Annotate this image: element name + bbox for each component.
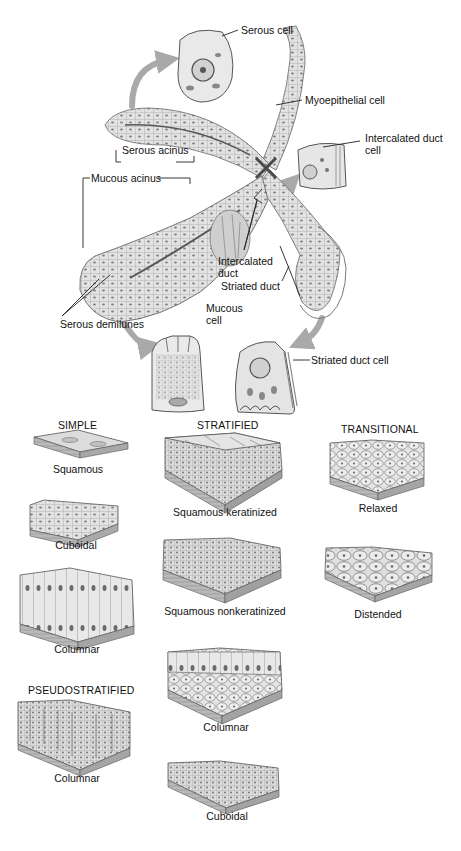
label-mucous-cell-line1: Mucous [206, 302, 243, 314]
heading-simple: SIMPLE [58, 419, 97, 431]
label-striated-duct-cell: Striated duct cell [311, 354, 389, 366]
heading-transitional: TRANSITIONAL [341, 423, 419, 435]
label-intercalated-duct-cell: Intercalated duct cell [365, 132, 443, 156]
label-intercalated-duct: Intercalated duct [218, 255, 273, 279]
stratified-squamous-nonkeratinized-illustration [163, 538, 281, 603]
label-intercalated-duct-line2: duct [218, 267, 273, 279]
transitional-distended-illustration [325, 547, 432, 602]
intercalated-duct-cell-inset [298, 143, 346, 189]
heading-pseudostratified: PSEUDOSTRATIFIED [28, 684, 134, 696]
mucous-cell-inset [152, 336, 204, 412]
caption-stratified-squamous-nonkeratinized: Squamous nonkeratinized [160, 605, 290, 617]
label-intercalated-duct-cell-line1: Intercalated duct [365, 132, 443, 144]
label-serous-demilunes: Serous demilunes [60, 318, 144, 330]
caption-stratified-squamous-keratinized: Squamous keratinized [160, 506, 290, 518]
label-intercalated-duct-cell-line2: cell [365, 144, 443, 156]
caption-transitional-distended: Distended [328, 608, 428, 620]
stratified-cuboidal-illustration [168, 761, 279, 814]
caption-transitional-relaxed: Relaxed [328, 502, 428, 514]
heading-stratified: STRATIFIED [197, 419, 258, 431]
label-striated-duct: Striated duct [221, 280, 280, 292]
label-mucous-acinus: Mucous acinus [91, 172, 161, 184]
transitional-relaxed-illustration [330, 440, 424, 500]
label-serous-acinus: Serous acinus [122, 144, 189, 156]
caption-simple-squamous: Squamous [28, 463, 128, 475]
caption-stratified-columnar: Columnar [176, 721, 276, 733]
simple-columnar-illustration [20, 568, 134, 650]
pseudostratified-columnar-illustration [18, 700, 130, 776]
caption-simple-cuboidal: Cuboidal [26, 539, 126, 551]
stratified-columnar-illustration [168, 648, 282, 724]
label-mucous-cell-line2: cell [206, 314, 243, 326]
caption-simple-columnar: Columnar [27, 643, 127, 655]
serous-cell-inset [178, 30, 233, 102]
striated-duct-cell-inset [235, 342, 297, 414]
label-myoepithelial-cell: Myoepithelial cell [305, 94, 385, 106]
label-serous-cell: Serous cell [241, 24, 293, 36]
stratified-squamous-keratinized-illustration [165, 433, 282, 513]
caption-stratified-cuboidal: Cuboidal [177, 810, 277, 822]
label-intercalated-duct-line1: Intercalated [218, 255, 273, 267]
label-mucous-cell: Mucous cell [206, 302, 243, 326]
caption-pseudostratified-columnar: Columnar [27, 772, 127, 784]
simple-squamous-illustration [34, 430, 128, 458]
